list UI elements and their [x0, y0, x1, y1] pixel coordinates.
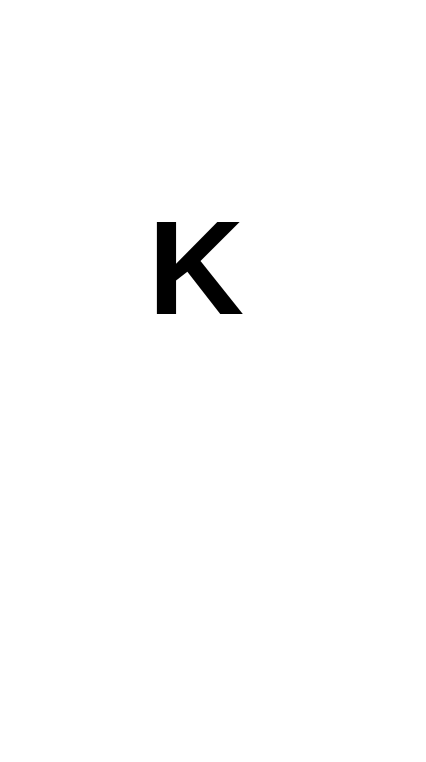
logo-letter: K [148, 202, 244, 335]
app-logo: K [150, 203, 242, 333]
splash-screen: K [0, 0, 426, 762]
